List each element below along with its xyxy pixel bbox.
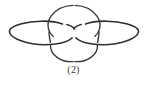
- center-circle-component: [48, 5, 100, 61]
- figure-caption: (2): [0, 64, 147, 76]
- right-ellipse-arc-main: [76, 21, 139, 44]
- figure-root: (2): [0, 0, 147, 86]
- left-ellipse-component: [9, 21, 74, 44]
- center-circle-arc-lower-left: [51, 45, 74, 62]
- right-ellipse-component: [74, 21, 139, 44]
- right-ellipse-arc-stub: [74, 25, 82, 29]
- left-ellipse-arc-main: [9, 21, 72, 44]
- center-circle-arc-lower-right: [75, 45, 98, 62]
